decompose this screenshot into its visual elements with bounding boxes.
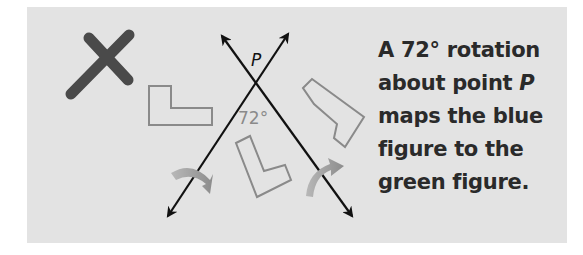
caption-line-2-text: about point [378,71,519,95]
angle-label: 72° [238,108,268,128]
x-mark-icon [71,35,129,94]
caption-line-3: maps the blue [378,100,568,133]
point-label: P [251,50,261,70]
caption-line-5: green figure. [378,166,568,199]
l-shape-left [149,86,212,125]
caption-point-var: P [519,71,534,95]
caption-line-1: A 72° rotation [378,34,568,67]
l-shape-right [303,79,364,147]
caption-line-4: figure to the [378,133,568,166]
caption-text: A 72° rotation about point P maps the bl… [378,34,568,199]
l-shape-middle [236,136,291,197]
caption-line-2: about point P [378,67,568,100]
